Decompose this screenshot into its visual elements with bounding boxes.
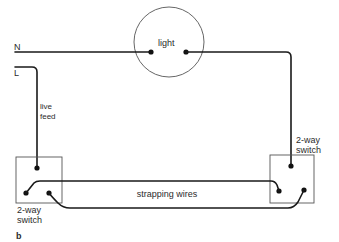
right-switch-common-terminal (288, 163, 293, 168)
right-switch-label-1: 2-way (296, 135, 321, 145)
figure-letter: b (16, 231, 22, 241)
diagram-canvas: light N L live feed 2-way switch 2-way s… (0, 0, 339, 242)
left-switch-common-terminal (34, 165, 39, 170)
strapping-wires-label: strapping wires (137, 189, 198, 199)
wiring-diagram: light N L live feed 2-way switch 2-way s… (0, 0, 339, 242)
left-switch-label-2: switch (17, 215, 42, 225)
live-label: L (14, 68, 19, 78)
light-terminal-left (148, 49, 153, 54)
left-switch-box (16, 157, 62, 203)
switch-wire-to-light (186, 52, 291, 166)
live-feed-label-1: live (40, 102, 53, 111)
right-switch-box (270, 155, 314, 203)
live-feed-wire (15, 67, 37, 168)
live-feed-label-2: feed (40, 112, 56, 121)
left-switch-label-1: 2-way (17, 205, 42, 215)
neutral-label: N (14, 42, 21, 52)
right-switch-label-2: switch (296, 145, 321, 155)
light-label: light (158, 38, 175, 48)
